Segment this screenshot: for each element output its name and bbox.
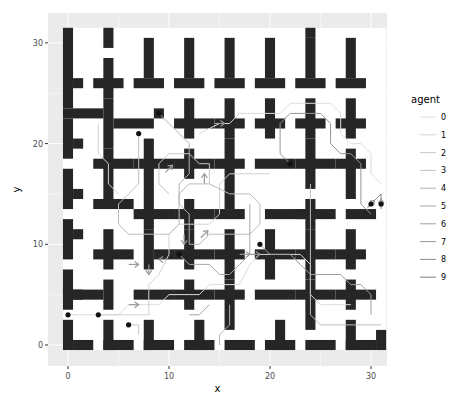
maze-wall xyxy=(346,320,356,350)
maze-wall xyxy=(93,249,133,259)
x-tick-label: 30 xyxy=(366,372,376,381)
agent-start-5 xyxy=(177,252,182,257)
maze-wall xyxy=(376,330,386,350)
maze-wall xyxy=(305,340,335,350)
maze-wall xyxy=(214,159,244,169)
maze-wall xyxy=(63,169,73,209)
maze-wall xyxy=(134,290,174,300)
maze-wall xyxy=(214,78,244,88)
maze-wall xyxy=(225,340,255,350)
legend-label-8: 8 xyxy=(441,255,446,264)
agent-start-3 xyxy=(136,131,141,136)
maze-wall xyxy=(305,28,315,38)
maze-wall xyxy=(103,28,113,48)
maze-wall xyxy=(134,209,174,219)
y-tick-label: 20 xyxy=(33,140,43,149)
legend-label-2: 2 xyxy=(441,149,446,158)
agent-start-1 xyxy=(96,312,101,317)
maze-wall xyxy=(174,118,214,128)
agent-start-6 xyxy=(257,242,262,247)
maze-wall xyxy=(63,108,103,118)
legend-label-6: 6 xyxy=(441,220,446,229)
legend-label-4: 4 xyxy=(441,184,446,193)
maze-wall xyxy=(134,78,164,88)
maze-wall xyxy=(144,229,154,269)
maze-wall xyxy=(134,159,174,169)
maze-wall xyxy=(346,149,356,199)
y-axis-title: y xyxy=(11,186,22,192)
maze-wall xyxy=(346,38,356,78)
agent-start-2 xyxy=(126,322,131,327)
maze-wall xyxy=(63,58,73,108)
legend-label-5: 5 xyxy=(441,202,446,211)
legend-label-0: 0 xyxy=(441,113,446,122)
maze-wall xyxy=(225,38,235,78)
x-tick-label: 20 xyxy=(265,372,275,381)
maze-wall xyxy=(93,199,133,209)
maze-wall xyxy=(73,78,83,88)
maze-wall xyxy=(255,78,285,88)
maze-wall xyxy=(255,290,295,300)
legend-label-7: 7 xyxy=(441,238,446,247)
agent-start-0 xyxy=(65,312,70,317)
x-axis: 0102030 xyxy=(65,366,376,381)
maze-wall xyxy=(103,280,113,310)
y-tick-label: 0 xyxy=(38,341,43,350)
maze-wall xyxy=(305,38,315,78)
agent-start-7 xyxy=(288,161,293,166)
maze-wall xyxy=(103,98,113,148)
maze-wall xyxy=(174,78,204,88)
maze-wall xyxy=(73,340,93,350)
agent-start-9 xyxy=(379,201,384,206)
maze-wall xyxy=(295,78,325,88)
maze-wall xyxy=(63,219,73,259)
maze-wall xyxy=(63,118,73,158)
maze-wall xyxy=(265,38,275,78)
x-axis-title: x xyxy=(215,383,221,394)
maze-wall xyxy=(295,209,335,219)
maze-wall xyxy=(194,320,204,350)
maze-wall xyxy=(93,78,123,88)
maze-wall xyxy=(295,249,335,259)
y-tick-label: 10 xyxy=(33,240,43,249)
legend-label-1: 1 xyxy=(441,131,446,140)
y-axis: 0102030 xyxy=(33,39,48,350)
legend-label-9: 9 xyxy=(441,273,446,282)
maze-wall xyxy=(154,249,174,259)
maze-wall xyxy=(113,118,153,128)
x-tick-label: 0 xyxy=(65,372,70,381)
maze-wall xyxy=(295,290,335,300)
y-tick-label: 30 xyxy=(33,39,43,48)
legend: agent 0123456789 xyxy=(411,94,446,282)
maze-wall xyxy=(73,189,83,199)
maze-wall xyxy=(275,320,285,350)
maze-wall xyxy=(214,290,244,300)
maze-wall xyxy=(295,159,335,169)
maze-wall xyxy=(295,118,325,128)
maze-wall xyxy=(336,118,366,128)
agent-start-8 xyxy=(368,201,373,206)
maze-agent-plot: 0102030 0102030 x y agent 0123456789 xyxy=(0,0,469,408)
maze-wall xyxy=(73,229,83,239)
agent-start-4 xyxy=(156,111,161,116)
maze-wall xyxy=(336,78,366,88)
x-tick-label: 10 xyxy=(164,372,174,381)
maze-wall xyxy=(336,249,366,259)
maze-wall xyxy=(103,320,113,350)
maze-wall xyxy=(63,320,73,350)
maze-wall xyxy=(184,38,194,78)
maze-wall xyxy=(174,209,214,219)
maze-wall xyxy=(63,28,73,58)
maze-wall xyxy=(144,38,154,78)
maze-wall xyxy=(336,290,376,300)
maze-wall xyxy=(73,139,83,149)
maze-wall xyxy=(346,209,376,219)
maze-wall xyxy=(336,159,366,169)
legend-label-3: 3 xyxy=(441,166,446,175)
maze-wall xyxy=(63,290,103,300)
maze-wall xyxy=(144,320,154,350)
legend-title: agent xyxy=(411,94,440,105)
